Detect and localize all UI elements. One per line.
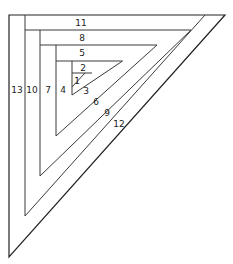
piece-label-2: 2 [80,63,86,73]
piece-label-6: 6 [93,97,99,107]
piece-label-4: 4 [60,85,66,95]
seam-9-diagonal [40,30,191,176]
piece-label-7: 7 [45,85,51,95]
piece-label-11: 11 [75,18,86,28]
piece-label-5: 5 [79,48,85,58]
piece-label-10: 10 [26,85,38,95]
log-cabin-triangle-diagram: 1 2 3 4 5 6 7 8 9 10 11 12 13 [0,0,233,264]
piece-labels: 1 2 3 4 5 6 7 8 9 10 11 12 13 [11,18,124,129]
piece-label-1: 1 [74,76,80,86]
seam-lines [25,15,205,216]
piece-label-9: 9 [104,108,110,118]
seam-6-diagonal [56,45,157,136]
piece-label-8: 8 [79,33,85,43]
piece-label-3: 3 [83,86,89,96]
piece-label-12: 12 [113,119,124,129]
piece-label-13: 13 [11,85,22,95]
outer-triangle [9,15,225,257]
